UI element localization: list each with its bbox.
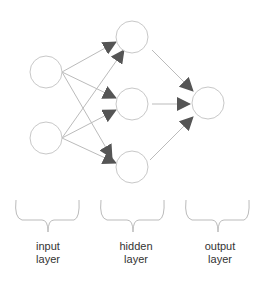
output-label-line2: layer xyxy=(180,253,260,266)
braces xyxy=(16,200,250,232)
hidden-node xyxy=(116,151,148,183)
hidden-layer-label: hidden layer xyxy=(96,240,176,266)
input-layer-label: input layer xyxy=(8,240,88,266)
hidden-brace xyxy=(101,200,165,232)
hidden-label-line2: layer xyxy=(96,253,176,266)
nodes xyxy=(30,21,224,183)
input-node xyxy=(30,56,62,88)
input-label-line1: input xyxy=(8,240,88,253)
hidden-label-line1: hidden xyxy=(96,240,176,253)
output-node xyxy=(192,87,224,119)
input-brace xyxy=(16,200,80,232)
hidden-node xyxy=(116,21,148,53)
input-label-line2: layer xyxy=(8,253,88,266)
input-node xyxy=(30,122,62,154)
output-brace xyxy=(186,200,250,232)
output-layer-label: output layer xyxy=(180,240,260,266)
output-label-line1: output xyxy=(180,240,260,253)
hidden-node xyxy=(116,88,148,120)
